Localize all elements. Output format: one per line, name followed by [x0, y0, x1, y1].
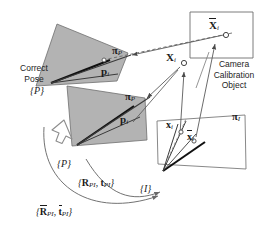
pi-subscript: P [118, 49, 122, 57]
point-label-p-correct: pi [101, 65, 109, 79]
point-label-x-small: xi [166, 119, 173, 132]
pi-subscript: P [131, 95, 135, 103]
R-bar-symbol: R [40, 206, 47, 217]
transform-label-correct: {RPI, tPI} [36, 206, 72, 219]
point-label-X: Xi [166, 51, 176, 65]
X-symbol: X [166, 51, 174, 63]
frame-label-image: {I} [140, 183, 151, 194]
point-label-x-bar-small: xi [187, 131, 194, 144]
transform-label-estimated: {RPI, tPI} [78, 177, 114, 190]
correct-pose-label: Correct Pose [10, 63, 58, 84]
camera-calibration-diagram: Correct Pose {P} {P} {I} Camera Calibrat… [0, 0, 277, 235]
point-marker-x-small [179, 130, 183, 134]
point-label-X-bar: Xi [209, 19, 219, 33]
x-bar-subscript: i [192, 135, 194, 143]
point-label-p-estimated: pi [120, 113, 128, 127]
correct-pose-line1: Correct [20, 63, 48, 73]
pi-subscript: I [238, 115, 240, 123]
frame-label-estimated-pose: {P} [57, 158, 71, 169]
plane-label-pi-p-estimated: πP [125, 86, 135, 104]
point-marker-Xbar [223, 32, 228, 37]
x-bar-symbol: x [187, 131, 192, 142]
plane-label-pi-i: πI [232, 106, 240, 124]
R-symbol: R [82, 177, 89, 188]
t-bar-symbol: t [58, 206, 61, 217]
ray-X-to-estimated-plane [147, 67, 180, 98]
point-marker-X [181, 60, 186, 65]
R-bar-subscript: PI [47, 210, 54, 218]
X-bar-symbol: X [209, 19, 217, 31]
calib-line3: Object [222, 80, 247, 90]
X-subscript: i [174, 56, 176, 64]
p-subscript: i [126, 118, 128, 126]
correct-pose-line2: Pose [24, 74, 43, 84]
p-subscript: i [107, 70, 109, 78]
R-subscript: PI [89, 181, 96, 189]
x-subscript: i [171, 123, 173, 131]
plane-label-pi-p-correct: πP [112, 40, 122, 58]
point-marker-p-correct [102, 58, 106, 62]
ray-X-to-p-estimated [133, 70, 178, 122]
calibration-object-label: Camera Calibration Object [203, 59, 265, 91]
calib-line2: Calibration [214, 70, 255, 80]
frame-label-correct-pose: {P} [30, 85, 44, 96]
X-bar-subscript: i [217, 24, 219, 32]
pose-correction-hollow-arrow [52, 120, 72, 144]
calib-line1: Camera [219, 59, 249, 69]
